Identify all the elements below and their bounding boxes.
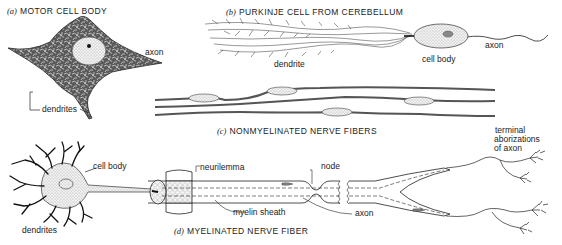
- label-d-axon: axon: [355, 208, 373, 218]
- panel-d-title: (d)MYELINATED NERVE FIBER: [174, 226, 308, 236]
- label-b-dendrite: dendrite: [274, 59, 305, 69]
- panel-a-letter: (a): [7, 6, 17, 16]
- purkinje-cell-drawing: [205, 18, 548, 57]
- purkinje-soma: [414, 24, 468, 48]
- motor-cell-body-drawing: [8, 16, 162, 119]
- multipolar-neuron-drawing: [10, 142, 152, 226]
- label-d-node: node: [321, 161, 340, 171]
- label-a-axon: axon: [145, 47, 163, 57]
- panel-b-title: (b)PURKINJE CELL FROM CEREBELLUM: [226, 7, 403, 17]
- label-b-axon: axon: [485, 40, 503, 50]
- label-d-cell-body: cell body: [93, 161, 127, 171]
- purkinje-nucleus: [443, 31, 453, 37]
- label-a-dendrites: dendrites: [42, 104, 77, 114]
- terminal-arborizations-drawing: [446, 150, 548, 234]
- neuron-types-diagram: (a)MOTOR CELL BODY axon dendrites (b)PUR…: [0, 0, 562, 245]
- panel-c-letter: (c): [217, 126, 226, 136]
- panel-a-title: (a)MOTOR CELL BODY: [7, 6, 107, 16]
- label-b-cell-body: cell body: [422, 54, 456, 64]
- label-d-myelin-sheath: myelin sheath: [233, 207, 285, 217]
- panel-c-title: (c)NONMYELINATED NERVE FIBERS: [217, 126, 377, 136]
- label-d-terminal-line3: of axon: [494, 143, 522, 153]
- myelinated-fiber-drawing: [148, 166, 450, 216]
- label-d-neurilemma: neurilemma: [200, 162, 244, 172]
- label-d-dendrites: dendrites: [22, 225, 57, 235]
- panel-b-letter: (b): [226, 7, 236, 17]
- panel-b-title-text: PURKINJE CELL FROM CEREBELLUM: [239, 7, 403, 17]
- panel-a-title-text: MOTOR CELL BODY: [20, 6, 107, 16]
- panel-c-title-text: NONMYELINATED NERVE FIBERS: [229, 126, 377, 136]
- panel-d-letter: (d): [174, 226, 184, 236]
- panel-d-title-text: MYELINATED NERVE FIBER: [187, 226, 308, 236]
